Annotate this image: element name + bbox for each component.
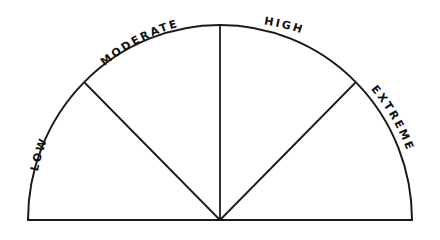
risk-gauge: LOW MODERATE HIGH EXTREME (0, 0, 440, 240)
gauge-svg: LOW MODERATE HIGH EXTREME (0, 0, 440, 240)
